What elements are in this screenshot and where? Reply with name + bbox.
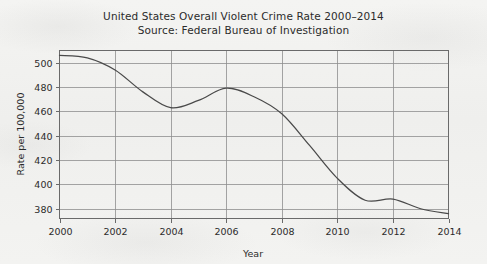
y-tick-label: 420	[34, 155, 52, 166]
y-tick-label: 380	[34, 204, 52, 215]
x-tick-label: 2008	[270, 226, 294, 237]
x-axis-title: Year	[242, 248, 263, 259]
x-tick-label: 2010	[325, 226, 349, 237]
x-tick-label: 2004	[159, 226, 183, 237]
data-series-line-violent-crime-rate	[60, 55, 449, 213]
y-tick-label: 400	[34, 179, 52, 190]
x-tick-label: 2014	[437, 226, 461, 237]
chart-title-line-2: Source: Federal Bureau of Investigation	[138, 24, 349, 36]
y-tick-label: 500	[34, 58, 52, 69]
x-tickmarks	[61, 219, 450, 223]
y-axis-tick-labels: 380400420440460480500	[34, 58, 52, 215]
x-tick-label: 2000	[48, 226, 72, 237]
y-axis-title: Rate per 100,000	[15, 93, 26, 176]
violent-crime-rate-chart: United States Overall Violent Crime Rate…	[0, 0, 487, 264]
x-axis-tick-labels: 20002002200420062008201020122014	[48, 226, 461, 237]
y-tickmarks	[56, 64, 60, 210]
y-tick-label: 480	[34, 82, 52, 93]
x-gridlines	[116, 51, 394, 219]
chart-canvas: United States Overall Violent Crime Rate…	[0, 0, 487, 264]
x-tick-label: 2002	[103, 226, 127, 237]
x-tick-label: 2012	[381, 226, 405, 237]
y-tick-label: 460	[34, 106, 52, 117]
y-tick-label: 440	[34, 131, 52, 142]
x-tick-label: 2006	[214, 226, 238, 237]
chart-title-line-1: United States Overall Violent Crime Rate…	[103, 10, 384, 22]
plot-frame	[60, 51, 449, 219]
y-gridlines	[60, 64, 449, 210]
